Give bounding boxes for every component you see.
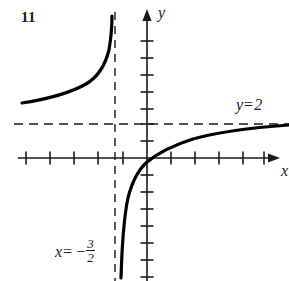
problem-number: 11 [21, 10, 36, 25]
va-equals: = [62, 244, 73, 260]
ha-value: 2 [254, 96, 262, 113]
y-axis [142, 9, 151, 281]
ha-equals: = [243, 96, 254, 113]
va-minus-sign: − [76, 244, 85, 260]
x-axis-label: x [281, 163, 288, 179]
curve-left-branch [22, 16, 112, 103]
y-axis-label: y [158, 5, 165, 21]
va-fraction: 32 [86, 237, 95, 265]
va-variable: x [55, 244, 62, 260]
rational-function-figure: 11 y x y=2 x=−32 [0, 0, 289, 281]
vertical-asymptote-label: x=−32 [55, 238, 95, 266]
va-denominator: 2 [86, 250, 95, 264]
va-numerator: 3 [86, 237, 95, 250]
horizontal-asymptote-label: y=2 [236, 97, 262, 113]
graph-canvas [0, 0, 289, 281]
